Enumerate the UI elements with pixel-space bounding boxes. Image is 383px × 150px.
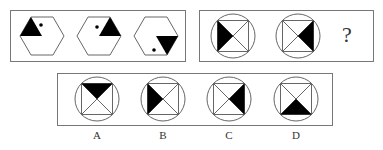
option-b-figure[interactable]	[141, 77, 185, 121]
question-mark: ?	[342, 22, 352, 48]
hexagon-figure-1	[20, 17, 64, 55]
options-frame	[58, 74, 333, 126]
option-d-figure[interactable]	[274, 77, 318, 121]
option-c-figure[interactable]	[207, 77, 251, 121]
hexagon-figure-2	[77, 17, 121, 55]
option-a-label[interactable]: A	[87, 129, 107, 141]
option-d-label[interactable]: D	[286, 129, 306, 141]
option-a-figure[interactable]	[75, 77, 119, 121]
option-c-label[interactable]: C	[219, 129, 239, 141]
circle-figure-1	[211, 14, 255, 58]
option-b-label[interactable]: B	[153, 129, 173, 141]
hexagon-figure-3	[134, 17, 178, 55]
circle-figure-2	[276, 14, 320, 58]
puzzle-canvas	[0, 0, 383, 150]
